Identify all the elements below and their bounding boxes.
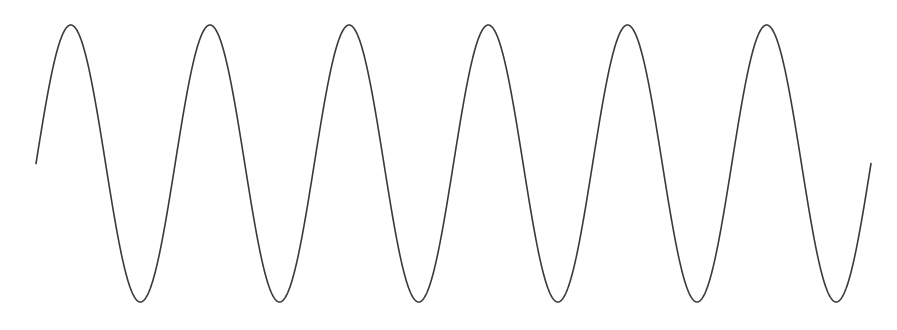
sine-wave-curve: [36, 25, 871, 302]
sine-wave-plot: [0, 0, 897, 330]
figure-canvas: [0, 0, 897, 330]
